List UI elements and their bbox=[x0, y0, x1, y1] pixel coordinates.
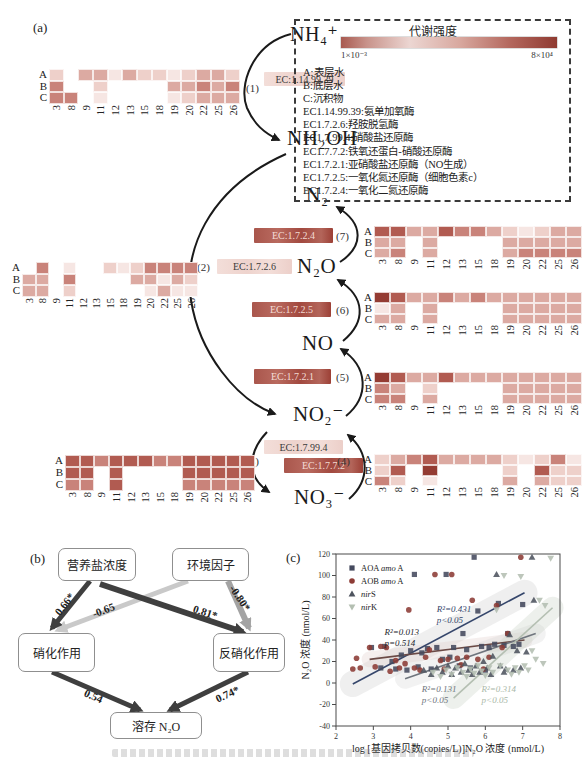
heatmap-cell bbox=[76, 274, 90, 286]
heatmap-cell bbox=[438, 314, 454, 325]
heatmap-cell bbox=[422, 372, 438, 383]
svg-text:40: 40 bbox=[322, 636, 330, 645]
heatmap-cell bbox=[566, 383, 582, 394]
heatmap-cell bbox=[196, 455, 211, 467]
heatmap-cell bbox=[438, 383, 454, 394]
heatmap-cell bbox=[470, 465, 486, 476]
heatmap-cell bbox=[130, 285, 144, 297]
heatmap-cell bbox=[196, 69, 211, 81]
heatmap-cell bbox=[406, 237, 422, 248]
heatmap-cell bbox=[65, 479, 80, 491]
heatmap-cell bbox=[406, 383, 422, 394]
heatmap-cell bbox=[534, 394, 550, 405]
heatmap-cell bbox=[518, 303, 534, 314]
heatmap-step7-right: ABC38911121315181920222526 bbox=[359, 226, 582, 288]
heatmap-cell bbox=[486, 314, 502, 325]
heatmap-cell bbox=[144, 285, 158, 297]
heatmap-cell bbox=[167, 92, 182, 104]
heatmap-cell bbox=[122, 92, 137, 104]
heatmap-cell bbox=[454, 394, 470, 405]
heatmap-cell bbox=[144, 274, 158, 286]
heatmap-cell bbox=[422, 226, 438, 237]
heatmap-row-label: A bbox=[7, 262, 22, 274]
heatmap-cell bbox=[167, 467, 182, 479]
box-label: 硝化作用 bbox=[33, 644, 81, 662]
heatmap-cell bbox=[422, 465, 438, 476]
heatmap-cell bbox=[78, 92, 93, 104]
heatmap-cell bbox=[196, 92, 211, 104]
heatmap-cell bbox=[438, 248, 454, 259]
box-dissolved-n2o: 溶存 N₂O bbox=[110, 712, 202, 739]
heatmap-cell bbox=[454, 372, 470, 383]
heatmap-col-label: 11 bbox=[63, 299, 77, 327]
heatmap-cell bbox=[109, 455, 124, 467]
heatmap-row-label: B bbox=[359, 303, 374, 314]
heatmap-cell bbox=[566, 237, 582, 248]
heatmap-cell bbox=[80, 479, 95, 491]
heatmap-col-label: 25 bbox=[171, 299, 185, 327]
box-label: 反硝化作用 bbox=[219, 644, 279, 662]
heatmap-cell bbox=[181, 69, 196, 81]
heatmap-col-label: 20 bbox=[518, 488, 534, 516]
heatmap-col-label: 12 bbox=[76, 299, 90, 327]
heatmap-cell bbox=[374, 314, 390, 325]
heatmap-cell bbox=[374, 248, 390, 259]
heatmap-cell bbox=[123, 455, 138, 467]
heatmap-cell bbox=[406, 303, 422, 314]
heatmap-col-label: 8 bbox=[80, 493, 95, 521]
heatmap-col-label: 13 bbox=[454, 488, 470, 516]
heatmap-cell bbox=[470, 383, 486, 394]
annotation-aob-amoa: R²=0.013p=0.514 bbox=[384, 627, 420, 648]
heatmap-cell bbox=[167, 69, 182, 81]
heatmap-col-label: 8 bbox=[390, 488, 406, 516]
heatmap-cell bbox=[518, 383, 534, 394]
heatmap-row-label: B bbox=[359, 237, 374, 248]
heatmap-cell bbox=[518, 394, 534, 405]
step-6: (6) bbox=[336, 304, 349, 316]
heatmap-cell bbox=[470, 314, 486, 325]
heatmap-cell bbox=[211, 479, 226, 491]
heatmap-cell bbox=[550, 372, 566, 383]
heatmap-cell bbox=[94, 455, 109, 467]
svg-text:7: 7 bbox=[521, 732, 525, 741]
heatmap-col-label: 12 bbox=[438, 406, 454, 434]
heatmap-cell bbox=[196, 81, 211, 93]
heatmap-cell bbox=[534, 292, 550, 303]
heatmap-cell bbox=[502, 454, 518, 465]
heatmap-cell bbox=[486, 383, 502, 394]
heatmap-cell bbox=[454, 226, 470, 237]
svg-text:80: 80 bbox=[322, 593, 330, 602]
heatmap-col-label: 12 bbox=[438, 326, 454, 354]
ec-bar-1.7.2.4: EC:1.7.2.4 bbox=[254, 228, 333, 243]
heatmap-row-label: B bbox=[50, 467, 65, 479]
heatmap-cell bbox=[374, 476, 390, 487]
heatmap-cell bbox=[534, 226, 550, 237]
heatmap-cell bbox=[406, 372, 422, 383]
compound-n2o: N₂O bbox=[297, 254, 336, 279]
heatmap-cell bbox=[438, 454, 454, 465]
heatmap-cell bbox=[184, 262, 198, 274]
legend-entry: C:沉积物 bbox=[303, 92, 565, 105]
legend-label-nirk: nirK bbox=[361, 602, 378, 612]
heatmap-cell bbox=[374, 372, 390, 383]
heatmap-col-label: 15 bbox=[103, 299, 117, 327]
heatmap-cell bbox=[93, 92, 108, 104]
heatmap-cell bbox=[240, 479, 255, 491]
heatmap-col-label: 8 bbox=[390, 326, 406, 354]
heatmap-col-label: 25 bbox=[550, 406, 566, 434]
heatmap-col-label: 9 bbox=[406, 406, 422, 434]
heatmap-cell bbox=[49, 274, 63, 286]
ec-label: EC:1.7.99.4 bbox=[279, 442, 327, 453]
heatmap-row-label: A bbox=[34, 69, 49, 81]
heatmap-col-label: 9 bbox=[406, 326, 422, 354]
heatmap-col-label: 22 bbox=[534, 488, 550, 516]
heatmap-col-label: 20 bbox=[518, 406, 534, 434]
heatmap-cell bbox=[184, 285, 198, 297]
heatmap-cell bbox=[49, 285, 63, 297]
svg-text:5: 5 bbox=[446, 732, 450, 741]
heatmap-cell bbox=[486, 454, 502, 465]
box-nutrient: 营养盐浓度 bbox=[58, 548, 136, 581]
heatmap-row-label: C bbox=[34, 92, 49, 104]
heatmap-col-label: 11 bbox=[422, 488, 438, 516]
heatmap-cell bbox=[470, 454, 486, 465]
